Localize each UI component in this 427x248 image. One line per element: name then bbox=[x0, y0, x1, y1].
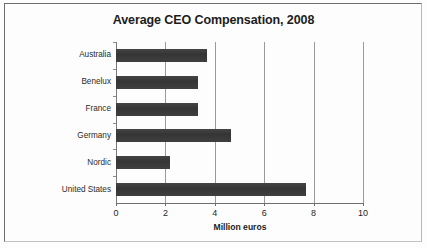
x-tick-label-4: 4 bbox=[202, 208, 228, 218]
bar-row bbox=[116, 176, 363, 203]
bar-united-states bbox=[116, 183, 306, 196]
bar-germany bbox=[116, 129, 231, 142]
x-tick-label-10: 10 bbox=[350, 208, 376, 218]
category-label-nordic: Nordic bbox=[0, 158, 111, 168]
bar-france bbox=[116, 103, 198, 116]
category-label-united-states: United States bbox=[0, 185, 111, 195]
chart-title: Average CEO Compensation, 2008 bbox=[0, 13, 427, 27]
bar-row bbox=[116, 123, 363, 150]
y-tick bbox=[113, 69, 116, 70]
category-label-benelux: Benelux bbox=[0, 77, 111, 87]
plot-area bbox=[116, 42, 363, 203]
y-tick bbox=[113, 123, 116, 124]
y-tick bbox=[113, 149, 116, 150]
category-label-germany: Germany bbox=[0, 131, 111, 141]
bar-row bbox=[116, 149, 363, 176]
x-tick-label-8: 8 bbox=[301, 208, 327, 218]
x-tick-0 bbox=[116, 203, 117, 206]
chart-page: Average CEO Compensation, 2008 Million e… bbox=[0, 0, 427, 248]
x-tick-8 bbox=[314, 203, 315, 206]
category-label-australia: Australia bbox=[0, 50, 111, 60]
x-tick-label-6: 6 bbox=[251, 208, 277, 218]
x-tick-10 bbox=[363, 203, 364, 206]
bar-australia bbox=[116, 49, 207, 62]
x-axis-title: Million euros bbox=[116, 222, 364, 232]
bar-row bbox=[116, 42, 363, 69]
x-tick-label-2: 2 bbox=[152, 208, 178, 218]
bar-row bbox=[116, 69, 363, 96]
x-tick-6 bbox=[264, 203, 265, 206]
x-tick-label-0: 0 bbox=[103, 208, 129, 218]
category-label-france: France bbox=[0, 104, 111, 114]
x-axis-line bbox=[116, 203, 364, 204]
y-tick bbox=[113, 96, 116, 97]
gridline-10 bbox=[363, 42, 364, 203]
bar-row bbox=[116, 96, 363, 123]
bar-benelux bbox=[116, 76, 198, 89]
x-tick-2 bbox=[165, 203, 166, 206]
y-tick bbox=[113, 42, 116, 43]
y-tick bbox=[113, 176, 116, 177]
x-tick-4 bbox=[215, 203, 216, 206]
bar-nordic bbox=[116, 156, 170, 169]
